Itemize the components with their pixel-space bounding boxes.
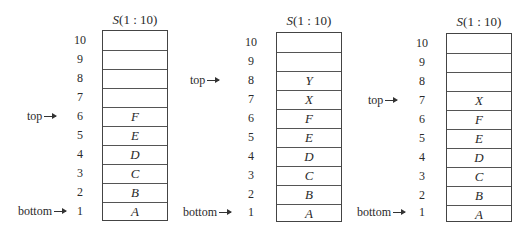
bottom-pointer-label: bottom xyxy=(357,205,391,220)
stack-range: (1 : 10) xyxy=(463,14,501,29)
index-label: 5 xyxy=(70,128,90,143)
bottom-pointer-label: bottom xyxy=(183,205,217,220)
stack-cell-6: F xyxy=(277,109,341,128)
arrow-right-icon xyxy=(219,212,231,213)
index-label: 10 xyxy=(412,36,432,51)
index-label: 4 xyxy=(241,149,261,164)
stack-cell-4: D xyxy=(447,148,511,167)
top-pointer-label: top xyxy=(27,109,42,124)
stack-cell-2: B xyxy=(103,183,167,202)
bottom-pointer: bottom xyxy=(357,205,405,220)
index-label: 4 xyxy=(70,147,90,162)
index-label: 10 xyxy=(70,33,90,48)
stack-cell-6: F xyxy=(103,107,167,126)
index-label: 9 xyxy=(241,54,261,69)
stack-cell-10 xyxy=(447,34,511,53)
stack-cell-6: F xyxy=(447,110,511,129)
stack-range: (1 : 10) xyxy=(119,12,157,27)
stack-cell-7 xyxy=(103,88,167,107)
index-label: 7 xyxy=(70,90,90,105)
stack-cell-3: C xyxy=(277,166,341,185)
stack-array: F E D C B A xyxy=(102,30,168,221)
stack-cell-10 xyxy=(103,31,167,50)
top-pointer-label: top xyxy=(190,73,205,88)
stack-cell-5: E xyxy=(103,126,167,145)
arrow-right-icon xyxy=(393,212,405,213)
index-label: 1 xyxy=(70,204,90,219)
stack-cell-9 xyxy=(103,50,167,69)
stack-cell-3: C xyxy=(103,164,167,183)
stack-cell-2: B xyxy=(277,185,341,204)
bottom-pointer-label: bottom xyxy=(18,204,52,219)
index-label: 3 xyxy=(412,169,432,184)
stack-cell-3: C xyxy=(447,167,511,186)
stack-cell-1: A xyxy=(447,205,511,222)
bottom-pointer: bottom xyxy=(183,205,231,220)
stack-cell-7: X xyxy=(277,90,341,109)
index-label: 2 xyxy=(412,188,432,203)
stack-cell-1: A xyxy=(103,202,167,221)
index-label: 6 xyxy=(70,109,90,124)
index-label: 6 xyxy=(412,112,432,127)
index-label: 7 xyxy=(241,92,261,107)
index-label: 4 xyxy=(412,150,432,165)
index-label: 7 xyxy=(412,93,432,108)
index-label: 2 xyxy=(70,185,90,200)
index-label: 8 xyxy=(70,71,90,86)
index-label: 1 xyxy=(241,205,261,220)
stack-cell-5: E xyxy=(277,128,341,147)
top-pointer: top xyxy=(27,109,56,124)
stack-cell-5: E xyxy=(447,129,511,148)
stack-cell-10 xyxy=(277,33,341,52)
index-label: 5 xyxy=(241,130,261,145)
index-label: 3 xyxy=(241,168,261,183)
top-pointer: top xyxy=(368,93,397,108)
stack-array: X F E D C B A xyxy=(446,33,512,222)
stack-range: (1 : 10) xyxy=(293,13,331,28)
index-label: 9 xyxy=(70,52,90,67)
index-label: 1 xyxy=(412,205,432,220)
index-label: 6 xyxy=(241,111,261,126)
index-label: 10 xyxy=(241,35,261,50)
stack-array: Y X F E D C B A xyxy=(276,32,342,222)
stack-cell-7: X xyxy=(447,91,511,110)
arrow-right-icon xyxy=(385,100,397,101)
top-pointer-label: top xyxy=(368,93,383,108)
arrow-right-icon xyxy=(54,211,66,212)
index-label: 9 xyxy=(412,55,432,70)
stack-cell-8: Y xyxy=(277,71,341,90)
index-label: 5 xyxy=(412,131,432,146)
stack-title: S(1 : 10) xyxy=(276,13,342,29)
stack-cell-1: A xyxy=(277,204,341,222)
index-label: 3 xyxy=(70,166,90,181)
stack-cell-4: D xyxy=(277,147,341,166)
top-pointer: top xyxy=(190,73,219,88)
stack-cell-9 xyxy=(447,53,511,72)
index-label: 8 xyxy=(412,74,432,89)
bottom-pointer: bottom xyxy=(18,204,66,219)
stack-cell-9 xyxy=(277,52,341,71)
stack-title: S(1 : 10) xyxy=(446,14,512,30)
stack-cell-4: D xyxy=(103,145,167,164)
arrow-right-icon xyxy=(44,116,56,117)
stack-cell-8 xyxy=(103,69,167,88)
index-label: 8 xyxy=(241,73,261,88)
stack-cell-2: B xyxy=(447,186,511,205)
stack-cell-8 xyxy=(447,72,511,91)
index-label: 2 xyxy=(241,187,261,202)
arrow-right-icon xyxy=(207,80,219,81)
stack-title: S(1 : 10) xyxy=(102,12,168,28)
